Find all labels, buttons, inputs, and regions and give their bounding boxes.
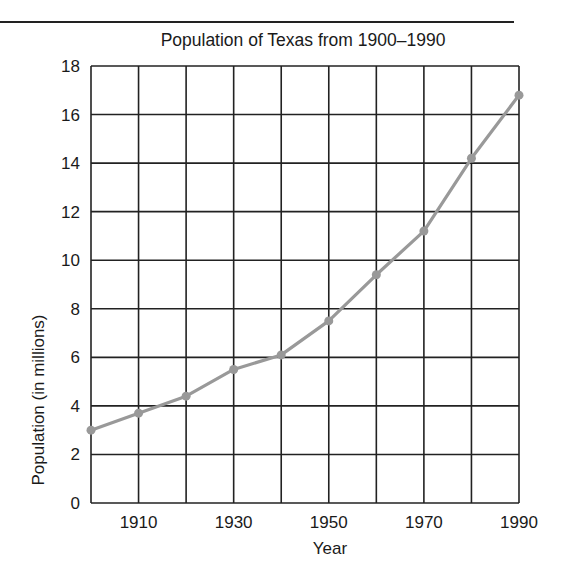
y-tick-label: 16 bbox=[61, 106, 80, 125]
data-series bbox=[87, 91, 524, 435]
y-axis-label: Population (in millions) bbox=[29, 314, 48, 485]
y-tick-label: 6 bbox=[71, 348, 80, 367]
data-point bbox=[277, 350, 286, 359]
data-point bbox=[324, 316, 333, 325]
y-tick-label: 18 bbox=[61, 57, 80, 76]
x-tick-label: 1950 bbox=[310, 513, 348, 532]
data-point bbox=[229, 365, 238, 374]
data-point bbox=[134, 409, 143, 418]
y-tick-label: 8 bbox=[71, 300, 80, 319]
y-tick-label: 0 bbox=[71, 494, 80, 513]
data-point bbox=[515, 91, 524, 100]
line-chart: Population of Texas from 1900–1990 02468… bbox=[0, 0, 572, 576]
y-tick-label: 2 bbox=[71, 445, 80, 464]
data-point bbox=[419, 227, 428, 236]
y-tick-label: 10 bbox=[61, 251, 80, 270]
series-line bbox=[91, 95, 519, 430]
data-point bbox=[467, 154, 476, 163]
x-tick-label: 1990 bbox=[500, 513, 538, 532]
x-axis-ticks: 19101930195019701990 bbox=[120, 513, 538, 532]
grid bbox=[91, 66, 519, 503]
data-point bbox=[372, 270, 381, 279]
x-tick-label: 1910 bbox=[120, 513, 158, 532]
x-tick-label: 1930 bbox=[215, 513, 253, 532]
x-axis-label: Year bbox=[313, 539, 348, 558]
data-point bbox=[182, 392, 191, 401]
y-tick-label: 14 bbox=[61, 154, 80, 173]
y-tick-label: 4 bbox=[71, 397, 80, 416]
y-axis-ticks: 024681012141618 bbox=[61, 57, 80, 513]
data-point bbox=[87, 426, 96, 435]
y-tick-label: 12 bbox=[61, 203, 80, 222]
chart-title: Population of Texas from 1900–1990 bbox=[161, 30, 446, 50]
x-tick-label: 1970 bbox=[405, 513, 443, 532]
